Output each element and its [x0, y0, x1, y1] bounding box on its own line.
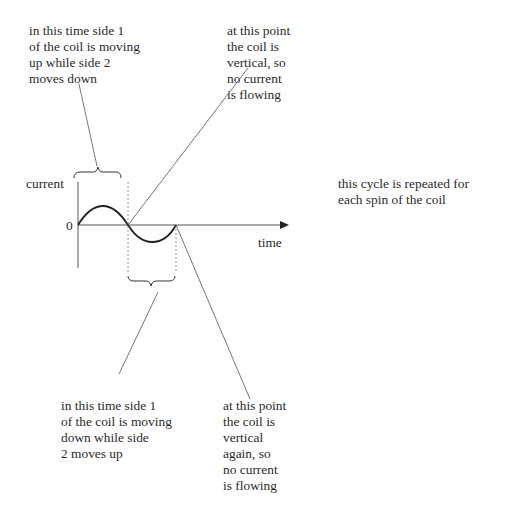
- leader-bottom-left: [119, 292, 158, 374]
- leader-top-left: [79, 84, 97, 166]
- x-axis-arrow-icon: [280, 221, 289, 229]
- leader-bottom-middle: [176, 225, 250, 399]
- bottom-brace: [128, 276, 175, 286]
- y-axis-label: current: [26, 176, 64, 191]
- current-wave: [78, 206, 176, 242]
- x-axis-label: time: [258, 235, 282, 250]
- top-brace: [74, 167, 121, 178]
- leader-top-middle: [128, 68, 248, 225]
- current-time-graph: current time 0: [0, 0, 512, 511]
- origin-label: 0: [66, 218, 73, 233]
